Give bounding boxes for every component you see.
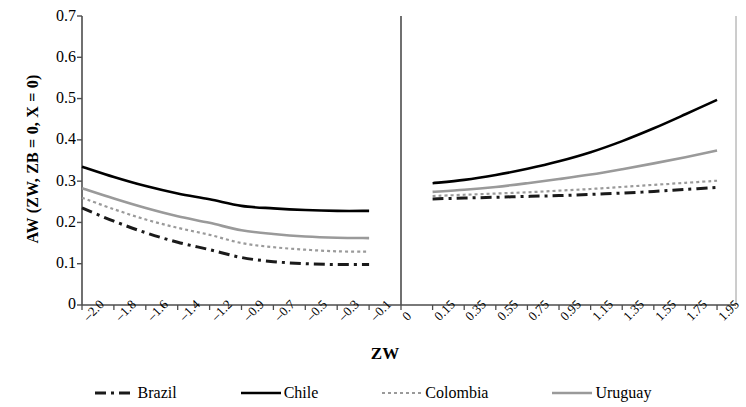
legend-item-chile[interactable]: Chile	[241, 385, 319, 401]
axes	[77, 16, 736, 310]
data-curves	[82, 100, 717, 265]
legend-label: Chile	[284, 385, 319, 401]
legend-item-colombia[interactable]: Colombia	[382, 385, 488, 401]
legend-item-uruguay[interactable]: Uruguay	[552, 385, 651, 401]
legend-swatch-chile	[241, 387, 281, 399]
legend-label: Brazil	[138, 385, 177, 401]
legend-swatch-colombia	[382, 387, 422, 399]
series-line-chile	[82, 167, 369, 211]
series-line-uruguay	[82, 188, 369, 238]
chart-legend: BrazilChileColombiaUruguay	[0, 378, 746, 407]
x-axis-label: ZW	[330, 344, 440, 364]
series-line-chile	[433, 100, 717, 183]
legend-swatch-uruguay	[552, 387, 592, 399]
series-line-colombia	[82, 198, 369, 252]
legend-item-brazil[interactable]: Brazil	[95, 385, 177, 401]
legend-label: Colombia	[425, 385, 488, 401]
legend-label: Uruguay	[595, 385, 651, 401]
legend-swatch-brazil	[95, 387, 135, 399]
chart-figure: AW (ZW, ZB = 0, X = 0) 0.7 0.6 0.5 0.4 0…	[0, 0, 746, 407]
